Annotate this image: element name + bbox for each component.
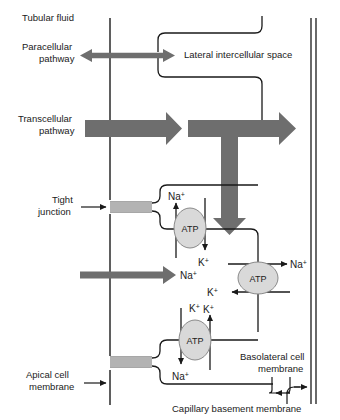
atp-label: ATP [187, 336, 204, 346]
ion-na-apical-lower-in: Na+ [172, 371, 189, 383]
label-apical-cell-membrane-line2: membrane [29, 381, 74, 392]
transcellular-t-arrow [188, 112, 296, 235]
label-paracellular-pathway-line1: Paracellular [22, 41, 72, 52]
label-transcellular-pathway-line1: Transcellular [18, 113, 72, 124]
text-labels: Tubular fluid Paracellular pathway Later… [18, 12, 304, 414]
label-basolateral-cell-membrane-line2: membrane [258, 363, 303, 374]
transcellular-left-arrow [85, 112, 182, 145]
atp-label: ATP [182, 224, 199, 234]
label-transcellular-pathway-line2: pathway [39, 125, 75, 136]
label-basolateral-cell-membrane-line1: Basolateral cell [240, 351, 304, 362]
atp-pump-apical-lower: ATP [179, 308, 211, 370]
ion-na-basolateral-out: Na+ [290, 259, 307, 271]
ion-na-paracellular-mid: Na+ [180, 270, 197, 282]
label-apical-cell-membrane-line1: Apical cell [26, 369, 69, 380]
paracellular-na-arrow [80, 266, 176, 284]
atp-label: ATP [250, 274, 267, 284]
label-tight-junction-line2: junction [37, 206, 71, 217]
ion-na-apical-upper-out: Na+ [168, 191, 185, 203]
diagram-canvas: ATP ATP ATP Na+ [0, 0, 340, 420]
basolateral-membrane-lower-path [152, 340, 273, 384]
tight-junction-lower [110, 357, 152, 368]
paracellular-pathway-arrow [80, 49, 175, 62]
label-paracellular-pathway-line2: pathway [39, 53, 75, 64]
atp-pump-apical-upper: ATP [174, 198, 206, 258]
epithelial-transport-diagram: ATP ATP ATP Na+ [0, 0, 340, 420]
capillary-basement-membrane-lines [311, 18, 316, 404]
ion-k-basolateral-in: K+ [207, 287, 218, 299]
label-tubular-fluid: Tubular fluid [22, 12, 74, 23]
label-capillary-basement-membrane: Capillary basement membrane [172, 403, 301, 414]
atp-pump-basolateral: ATP [228, 262, 290, 294]
ion-k-apical-upper-in: K+ [198, 257, 209, 269]
lateral-intercellular-space-bracket [158, 16, 262, 124]
label-lateral-intercellular-space: Lateral intercellular space [184, 49, 292, 60]
ion-k-apical-lower-out: K+ [203, 304, 214, 316]
label-tight-junction-line1: Tight [52, 194, 73, 205]
ion-k-apical-lower-cytosol: K+ [189, 303, 200, 315]
tight-junction-upper [110, 202, 152, 213]
